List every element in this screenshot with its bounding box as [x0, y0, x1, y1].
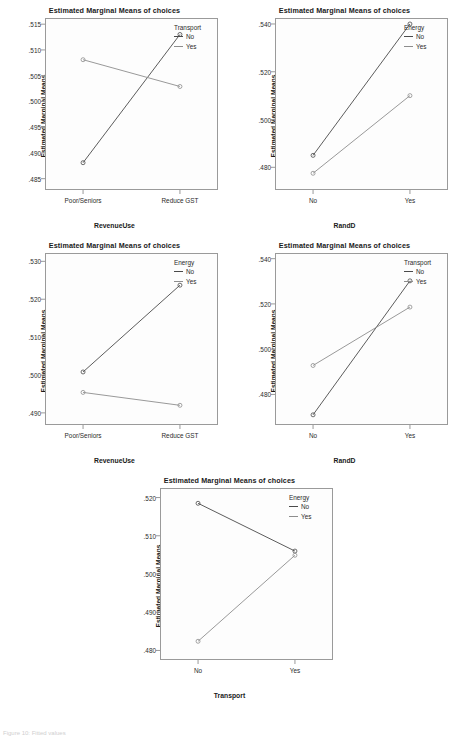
- legend-line-swatch-icon: [404, 46, 413, 47]
- legend-line-swatch-icon: [404, 36, 413, 37]
- y-tick-label: .500: [244, 116, 271, 123]
- y-tick-label: .520: [244, 300, 271, 307]
- legend: EnergyNoYes: [289, 493, 311, 521]
- x-axis-label: RevenueUse: [0, 222, 229, 229]
- x-axis-label: RandD: [230, 222, 459, 229]
- legend-item-label: No: [186, 32, 194, 41]
- y-tick-label: .485: [14, 175, 41, 182]
- y-tick-label: .540: [244, 20, 271, 27]
- legend-title: Transport: [174, 23, 201, 32]
- legend-title: Transport: [404, 258, 431, 267]
- series-line-yes: [83, 60, 180, 87]
- x-tick-label: Yes: [290, 667, 300, 674]
- figure-footnote: Figure 10: Fitted values: [3, 730, 66, 736]
- x-tick-label: Reduce GST: [161, 432, 198, 439]
- y-tick-label: .520: [129, 494, 156, 501]
- y-tick-label: .490: [14, 409, 41, 416]
- y-tick-label: .480: [129, 647, 156, 654]
- x-tick-label: Yes: [405, 432, 415, 439]
- legend-item-label: No: [416, 32, 424, 41]
- y-tick-label: .490: [129, 609, 156, 616]
- y-tick-label: .505: [14, 72, 41, 79]
- y-tick-label: .495: [14, 124, 41, 131]
- x-axis-label: RevenueUse: [0, 457, 229, 464]
- y-tick-label: .480: [244, 164, 271, 171]
- chart-panel-4: Estimated Marginal Means of choicesEstim…: [230, 235, 459, 467]
- legend-line-swatch-icon: [174, 281, 183, 282]
- x-tick-label: Yes: [405, 197, 415, 204]
- series-line-no: [313, 281, 410, 415]
- legend-title: Energy: [289, 493, 311, 502]
- series-line-no: [198, 503, 295, 551]
- x-tick-label: Poor/Seniors: [65, 197, 102, 204]
- legend-item-no[interactable]: No: [289, 502, 311, 511]
- legend-item-yes[interactable]: Yes: [404, 42, 426, 51]
- legend-item-no[interactable]: No: [404, 267, 431, 276]
- legend-line-swatch-icon: [289, 506, 298, 507]
- legend-item-yes[interactable]: Yes: [174, 277, 196, 286]
- legend: TransportNoYes: [174, 23, 201, 51]
- x-tick-label: Reduce GST: [161, 197, 198, 204]
- legend-item-yes[interactable]: Yes: [174, 42, 201, 51]
- x-tick-label: No: [194, 667, 202, 674]
- legend-item-label: No: [301, 502, 309, 511]
- y-tick-label: .510: [129, 532, 156, 539]
- y-tick-label: .520: [244, 68, 271, 75]
- y-tick-label: .500: [129, 571, 156, 578]
- legend-item-label: No: [416, 267, 424, 276]
- y-tick-label: .500: [14, 98, 41, 105]
- x-axis-label: RandD: [230, 457, 459, 464]
- chart-panel-5: Estimated Marginal Means of choicesEstim…: [115, 470, 344, 702]
- y-tick-label: .540: [244, 255, 271, 262]
- legend-line-swatch-icon: [404, 281, 413, 282]
- series-line-no: [83, 285, 180, 372]
- legend: TransportNoYes: [404, 258, 431, 286]
- legend-line-swatch-icon: [289, 516, 298, 517]
- y-tick-label: .510: [14, 46, 41, 53]
- legend: EnergyNoYes: [404, 23, 426, 51]
- series-line-yes: [313, 307, 410, 365]
- x-tick-label: Poor/Seniors: [65, 432, 102, 439]
- data-point-marker: [196, 501, 200, 505]
- x-axis-label: Transport: [115, 692, 344, 699]
- series-line-no: [313, 24, 410, 155]
- legend-item-no[interactable]: No: [174, 32, 201, 41]
- legend-item-label: Yes: [186, 277, 196, 286]
- legend: EnergyNoYes: [174, 258, 196, 286]
- legend-line-swatch-icon: [404, 271, 413, 272]
- y-tick-label: .530: [14, 258, 41, 265]
- legend-line-swatch-icon: [174, 271, 183, 272]
- series-line-no: [83, 34, 180, 162]
- y-tick-label: .515: [14, 21, 41, 28]
- legend-item-label: Yes: [416, 277, 426, 286]
- legend-title: Energy: [174, 258, 196, 267]
- x-tick-label: No: [309, 197, 317, 204]
- legend-item-yes[interactable]: Yes: [289, 512, 311, 521]
- series-line-yes: [313, 96, 410, 174]
- legend-item-label: Yes: [301, 512, 311, 521]
- legend-item-yes[interactable]: Yes: [404, 277, 431, 286]
- legend-item-label: Yes: [416, 42, 426, 51]
- y-tick-label: .510: [14, 334, 41, 341]
- chart-panel-1: Estimated Marginal Means of choicesEstim…: [0, 0, 229, 232]
- legend-line-swatch-icon: [174, 46, 183, 47]
- legend-title: Energy: [404, 23, 426, 32]
- y-tick-label: .500: [14, 371, 41, 378]
- y-tick-label: .500: [244, 346, 271, 353]
- y-tick-label: .490: [14, 149, 41, 156]
- series-line-yes: [83, 392, 180, 405]
- series-line-yes: [198, 555, 295, 641]
- y-tick-label: .480: [244, 391, 271, 398]
- legend-item-no[interactable]: No: [174, 267, 196, 276]
- legend-item-no[interactable]: No: [404, 32, 426, 41]
- chart-panel-2: Estimated Marginal Means of choicesEstim…: [230, 0, 459, 232]
- x-tick-label: No: [309, 432, 317, 439]
- legend-item-label: Yes: [186, 42, 196, 51]
- chart-panel-3: Estimated Marginal Means of choicesEstim…: [0, 235, 229, 467]
- y-tick-label: .520: [14, 296, 41, 303]
- legend-line-swatch-icon: [174, 36, 183, 37]
- legend-item-label: No: [186, 267, 194, 276]
